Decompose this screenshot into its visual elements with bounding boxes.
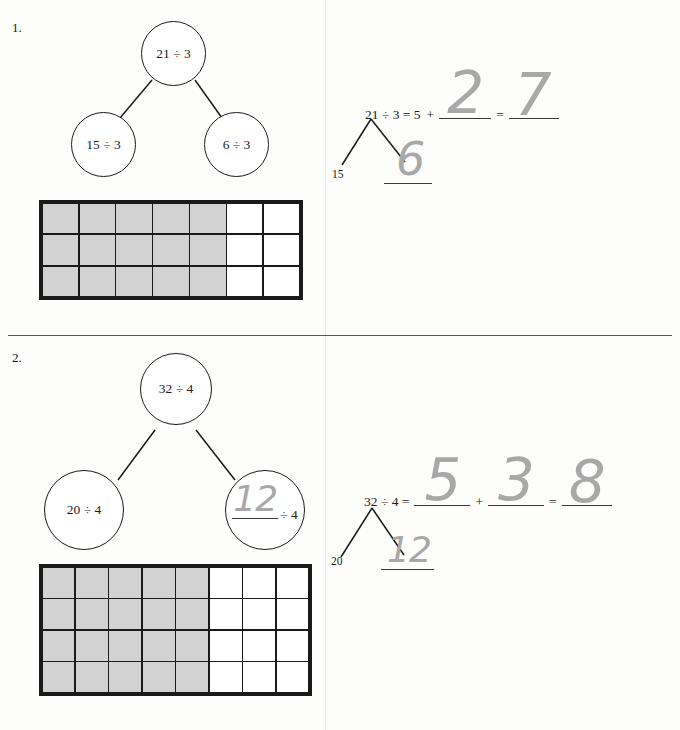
problem-1-array-grid [39, 200, 303, 300]
array-cell-empty [277, 662, 309, 692]
problem-2-equation: 32 ÷ 4 = 5 + 3 = 8 [363, 489, 612, 510]
array-cell-empty [227, 235, 262, 265]
array-cell-shaded [176, 568, 208, 598]
array-cell-shaded [109, 662, 141, 692]
array-cell-shaded [80, 235, 115, 265]
problem-2-right-child-suffix: ÷ 4 [280, 507, 298, 523]
problem-1-number: 1. [12, 20, 22, 36]
array-cell-shaded [43, 204, 78, 234]
problem-1-blank-2-handwriting: 7 [515, 66, 553, 124]
problem-1-blank-2[interactable]: 7 [509, 102, 559, 119]
problem-2-equation-lead: 32 ÷ 4 = [363, 494, 410, 510]
array-cell-shaded [176, 631, 208, 661]
problem-2-blank-2-handwriting: 3 [498, 451, 534, 509]
array-cell-shaded [116, 267, 151, 297]
array-cell-empty [210, 631, 242, 661]
problem-1-right-child-expression: 6 ÷ 3 [223, 137, 251, 153]
problem-1-blank-1-handwriting: 2 [447, 64, 483, 122]
array-cell-shaded [109, 631, 141, 661]
array-cell-shaded [143, 631, 175, 661]
problem-2-right-child-circle: 12 ÷ 4 [225, 470, 305, 550]
array-cell-empty [264, 267, 299, 297]
array-cell-shaded [43, 568, 75, 598]
problem-2-blank-3-handwriting: 8 [569, 453, 605, 511]
problem-2-blank-1[interactable]: 5 [414, 489, 470, 506]
problem-2-number: 2. [12, 350, 22, 366]
problem-2-sub-bond-right-handwriting: 12 [387, 532, 431, 568]
array-cell-shaded [80, 267, 115, 297]
array-cell-empty [243, 662, 275, 692]
problem-1-sub-bond-right-blank[interactable]: 6 [384, 160, 432, 184]
array-cell-empty [243, 568, 275, 598]
array-cell-shaded [109, 599, 141, 629]
problem-1-sub-bond-left-label: 15 [332, 168, 344, 180]
problem-2-right-child-expression: 12 ÷ 4 [232, 498, 298, 523]
problem-1-equation-lead: 21 ÷ 3 = 5 [364, 107, 422, 123]
array-cell-empty [264, 235, 299, 265]
array-cell-empty [210, 599, 242, 629]
problem-section-divider [8, 335, 672, 336]
problem-2-array-grid [39, 564, 312, 696]
array-cell-empty [264, 204, 299, 234]
array-cell-empty [277, 631, 309, 661]
array-cell-shaded [143, 568, 175, 598]
array-cell-empty [277, 568, 309, 598]
problem-2-left-child-expression: 20 ÷ 4 [67, 502, 101, 518]
problem-1-left-child-circle: 15 ÷ 3 [71, 112, 136, 177]
column-divider-rule [325, 0, 326, 730]
problem-1-equation: 21 ÷ 3 = 5 + 2 = 7 [364, 102, 559, 123]
array-cell-shaded [190, 204, 225, 234]
array-cell-empty [243, 599, 275, 629]
array-cell-shaded [76, 599, 108, 629]
array-cell-empty [210, 662, 242, 692]
problem-2-blank-2[interactable]: 3 [488, 489, 544, 506]
array-cell-shaded [80, 204, 115, 234]
array-cell-shaded [190, 267, 225, 297]
array-cell-shaded [190, 235, 225, 265]
problem-1-parent-expression: 21 ÷ 3 [156, 46, 190, 62]
problem-2-right-child-blank[interactable]: 12 [232, 498, 278, 519]
problem-2-sub-bond-blank-line [381, 568, 434, 570]
problem-1-sub-bond-right-handwriting: 6 [396, 136, 424, 182]
problem-2-parent-expression: 32 ÷ 4 [159, 381, 193, 397]
problem-2-equation-plus: + [470, 494, 488, 510]
problem-2-parent-circle: 32 ÷ 4 [140, 353, 212, 425]
problem-2-sub-bond-left-label: 20 [331, 555, 343, 567]
array-cell-empty [227, 204, 262, 234]
problem-1-right-child-circle: 6 ÷ 3 [204, 112, 269, 177]
array-cell-shaded [153, 204, 188, 234]
array-cell-shaded [176, 662, 208, 692]
array-cell-empty [210, 568, 242, 598]
array-cell-shaded [109, 568, 141, 598]
array-cell-shaded [153, 267, 188, 297]
array-cell-shaded [43, 267, 78, 297]
problem-1-equation-plus: + [422, 107, 440, 123]
array-cell-shaded [76, 568, 108, 598]
worksheet-page: 1. 21 ÷ 3 15 ÷ 3 6 ÷ 3 21 ÷ 3 = 5 + 2 = … [0, 0, 680, 730]
array-cell-shaded [43, 235, 78, 265]
problem-2-left-child-circle: 20 ÷ 4 [44, 470, 124, 550]
problem-1-parent-circle: 21 ÷ 3 [141, 21, 206, 86]
problem-2-right-child-handwriting: 12 [233, 481, 277, 517]
array-cell-empty [227, 267, 262, 297]
problem-1-blank-1[interactable]: 2 [439, 102, 491, 119]
problem-2-blank-3[interactable]: 8 [562, 489, 612, 506]
array-cell-empty [243, 631, 275, 661]
problem-1-equation-equals: = [491, 107, 509, 123]
array-cell-shaded [76, 631, 108, 661]
array-cell-empty [277, 599, 309, 629]
problem-2-blank-1-handwriting: 5 [424, 451, 460, 509]
array-cell-shaded [43, 662, 75, 692]
array-cell-shaded [176, 599, 208, 629]
array-cell-shaded [143, 662, 175, 692]
problem-2-sub-bond-right-blank[interactable]: 12 [381, 542, 434, 570]
array-cell-shaded [116, 204, 151, 234]
array-cell-shaded [43, 599, 75, 629]
array-cell-shaded [76, 662, 108, 692]
problem-1-left-child-expression: 15 ÷ 3 [86, 137, 120, 153]
problem-1-sub-bond-blank-line [384, 182, 432, 184]
array-cell-shaded [143, 599, 175, 629]
array-cell-shaded [153, 235, 188, 265]
problem-2-equation-equals: = [544, 494, 562, 510]
array-cell-shaded [43, 631, 75, 661]
